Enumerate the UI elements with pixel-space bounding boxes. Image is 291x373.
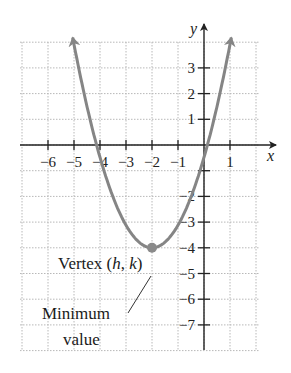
x-axis-label: x — [266, 147, 274, 164]
vertex-annotation: Vertex (h, k) — [58, 254, 143, 273]
x-tick-label: 1 — [226, 154, 234, 170]
y-tick-label: −4 — [179, 240, 195, 256]
y-tick-label: 3 — [188, 60, 196, 76]
y-tick-label: −7 — [179, 317, 195, 333]
x-tick-label: −2 — [144, 154, 160, 170]
y-tick-label: −5 — [179, 266, 195, 282]
minimum-annotation-line1: Minimum — [42, 304, 110, 323]
x-tick-label: −5 — [66, 154, 82, 170]
y-tick-label: 2 — [188, 86, 196, 102]
y-tick-label: −6 — [179, 291, 195, 307]
minimum-annotation-line2: value — [63, 330, 100, 349]
axes — [20, 24, 276, 350]
y-tick-label: 1 — [188, 111, 196, 127]
x-tick-label: −3 — [118, 154, 134, 170]
x-tick-label: −1 — [170, 154, 186, 170]
vertex-point — [147, 243, 157, 253]
parabola-chart: −6−5−4−3−2−11321−2−3−4−5−6−7 y x Vertex … — [0, 0, 291, 373]
annotation-leader-line — [128, 276, 151, 313]
x-tick-label: −6 — [40, 154, 56, 170]
y-axis-label: y — [188, 20, 198, 38]
